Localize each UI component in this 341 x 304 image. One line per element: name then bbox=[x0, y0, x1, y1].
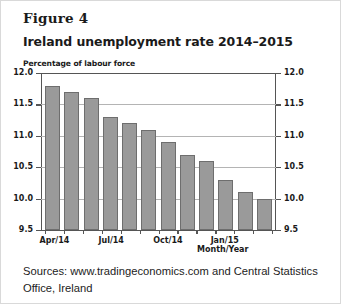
y-axis-label: 11.0 bbox=[284, 131, 304, 140]
bar bbox=[84, 98, 99, 230]
y-axis-tick bbox=[276, 136, 281, 137]
bar bbox=[161, 142, 176, 230]
x-axis-tick bbox=[196, 230, 197, 234]
bar bbox=[257, 199, 272, 230]
y-axis-label: 10.5 bbox=[13, 162, 33, 171]
bar-series bbox=[41, 73, 276, 230]
y-axis-tick bbox=[276, 230, 281, 231]
bar bbox=[238, 192, 253, 230]
y-axis-tick bbox=[36, 230, 41, 231]
y-axis-title: Percentage of labour force bbox=[23, 59, 135, 68]
y-axis-label: 10.0 bbox=[13, 194, 33, 203]
x-axis-tick bbox=[272, 230, 273, 234]
bar bbox=[141, 130, 156, 230]
figure-card: Figure 4 Ireland unemployment rate 2014–… bbox=[0, 0, 341, 304]
y-axis-label: 10.5 bbox=[284, 162, 304, 171]
bar bbox=[103, 117, 118, 230]
x-axis-label: Apr/14 bbox=[39, 236, 69, 245]
chart-title: Ireland unemployment rate 2014–2015 bbox=[23, 34, 293, 49]
bar bbox=[218, 180, 233, 230]
x-axis-label: Oct/14 bbox=[153, 236, 182, 245]
y-axis-tick bbox=[276, 73, 281, 74]
x-axis-tick bbox=[45, 230, 46, 234]
y-axis-tick bbox=[276, 167, 281, 168]
x-axis-tick bbox=[102, 230, 103, 234]
x-axis-tick bbox=[253, 230, 254, 234]
x-axis-label: Jul/14 bbox=[98, 236, 123, 245]
bar bbox=[45, 86, 60, 230]
x-axis-tick bbox=[83, 230, 84, 234]
y-axis-tick bbox=[276, 199, 281, 200]
bar bbox=[180, 155, 195, 230]
x-axis-tick bbox=[177, 230, 178, 234]
x-axis-label: Jan/15 bbox=[211, 236, 239, 245]
y-axis-tick bbox=[276, 104, 281, 105]
y-axis-label: 10.0 bbox=[284, 194, 304, 203]
bar bbox=[122, 123, 137, 230]
x-axis-tick bbox=[215, 230, 216, 234]
y-axis-label: 9.5 bbox=[284, 225, 298, 234]
plot-area: 12.012.011.511.511.011.010.510.510.010.0… bbox=[41, 73, 276, 230]
figure-label: Figure 4 bbox=[23, 10, 88, 26]
y-axis-label: 12.0 bbox=[284, 68, 304, 77]
x-axis-tick bbox=[121, 230, 122, 234]
y-axis-label: 11.0 bbox=[13, 131, 33, 140]
x-axis-tick bbox=[64, 230, 65, 234]
bar bbox=[199, 161, 214, 230]
x-axis-tick bbox=[234, 230, 235, 234]
x-axis-tick bbox=[140, 230, 141, 234]
y-axis-label: 12.0 bbox=[13, 68, 33, 77]
y-axis-label: 9.5 bbox=[19, 225, 33, 234]
y-axis-label: 11.5 bbox=[284, 99, 304, 108]
x-axis-title: Month/Year bbox=[197, 245, 248, 254]
y-axis-label: 11.5 bbox=[13, 99, 33, 108]
sources-note: Sources: www.tradingeconomics.com and Ce… bbox=[23, 263, 324, 297]
x-axis-tick bbox=[159, 230, 160, 234]
bar bbox=[64, 92, 79, 230]
